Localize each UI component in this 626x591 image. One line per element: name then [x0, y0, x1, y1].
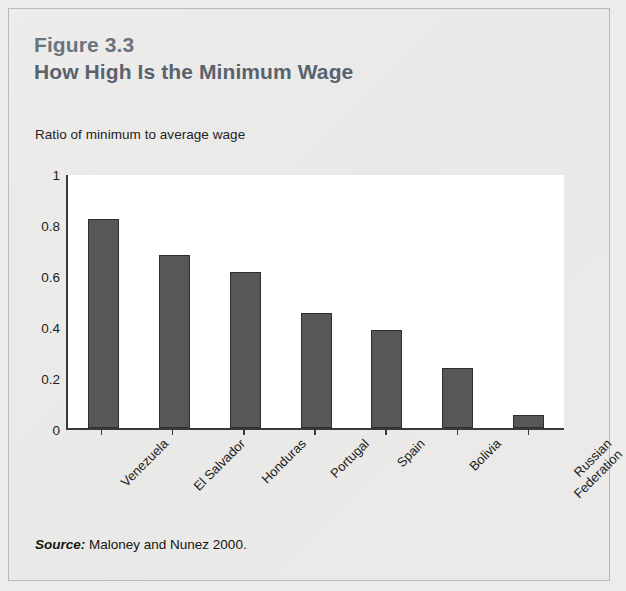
y-axis-ticks: 00.20.40.60.81 — [18, 175, 60, 430]
y-tick-label: 0.6 — [41, 270, 60, 285]
x-label-slot: Honduras — [208, 436, 279, 531]
x-axis-label: Russian Federation — [549, 436, 625, 512]
figure-card: Figure 3.3 How High Is the Minimum Wage … — [8, 8, 610, 581]
y-tick-label: 0.2 — [41, 372, 60, 387]
figure-title: How High Is the Minimum Wage — [34, 58, 574, 85]
y-tick-label: 1 — [52, 168, 60, 183]
x-label-slot: Venezuela — [66, 436, 137, 531]
x-tick-mark — [172, 430, 174, 435]
bar-slot — [68, 175, 139, 428]
x-tick-mark — [457, 430, 459, 435]
plot-area — [66, 175, 564, 430]
x-tick-mark — [528, 430, 530, 435]
title-block: Figure 3.3 How High Is the Minimum Wage — [34, 31, 574, 85]
x-tick-mark — [314, 430, 316, 435]
x-label-slot: Spain — [351, 436, 422, 531]
bar-slot — [422, 175, 493, 428]
source-note: Source: Maloney and Nunez 2000. — [35, 537, 247, 552]
y-tick-label: 0.4 — [41, 321, 60, 336]
x-label-slot: Bolivia — [422, 436, 493, 531]
figure-number: Figure 3.3 — [34, 31, 574, 58]
bar-slot — [139, 175, 210, 428]
bar[interactable] — [88, 219, 119, 428]
bar-slot — [281, 175, 352, 428]
bar[interactable] — [513, 415, 544, 428]
bar[interactable] — [159, 255, 190, 428]
bar-slot — [351, 175, 422, 428]
x-tick-mark — [101, 430, 103, 435]
source-text: Maloney and Nunez 2000. — [89, 537, 247, 552]
y-tick-label: 0 — [52, 423, 60, 438]
x-tick-mark — [385, 430, 387, 435]
chart-plot: 00.20.40.60.81 — [66, 175, 564, 430]
x-axis-labels: VenezuelaEl SalvadorHondurasPortugalSpai… — [66, 436, 564, 531]
source-label: Source: — [35, 537, 85, 552]
y-axis-caption: Ratio of minimum to average wage — [35, 127, 245, 142]
x-tick-mark — [243, 430, 245, 435]
bar[interactable] — [442, 368, 473, 428]
y-tick-label: 0.8 — [41, 219, 60, 234]
bar[interactable] — [371, 330, 402, 428]
x-label-slot: El Salvador — [137, 436, 208, 531]
bar-slot — [210, 175, 281, 428]
bar-series — [68, 175, 564, 428]
x-label-slot: Russian Federation — [493, 436, 564, 531]
bar[interactable] — [301, 313, 332, 428]
bar-slot — [493, 175, 564, 428]
bar[interactable] — [230, 272, 261, 428]
x-label-slot: Portugal — [279, 436, 350, 531]
